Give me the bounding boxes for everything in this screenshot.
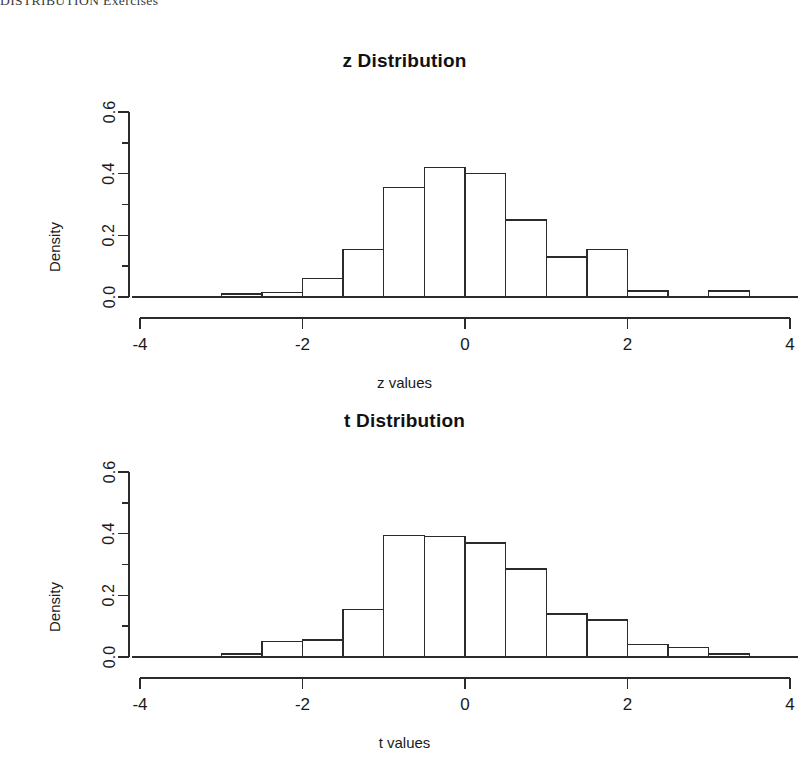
- histogram-bar: [506, 569, 547, 657]
- histogram-bar: [709, 291, 750, 297]
- histogram-bar: [384, 188, 425, 297]
- x-axis-title-t: t values: [0, 734, 809, 751]
- histogram-bar: [668, 648, 709, 657]
- y-tick-label: 0.2: [101, 584, 118, 606]
- y-tick-label: 0.0: [101, 286, 118, 308]
- y-axis-title-t: Density: [46, 582, 63, 632]
- histogram-bar: [465, 543, 506, 657]
- histogram-bar: [465, 174, 506, 297]
- x-tick-label: -2: [295, 695, 310, 714]
- histogram-bar: [587, 249, 628, 297]
- histogram-bar: [303, 279, 344, 298]
- x-tick-label: -4: [132, 335, 147, 354]
- figure-t-distribution: t Distribution 0.00.20.40.6-4-2024 Densi…: [0, 400, 809, 774]
- histogram-bar: [262, 642, 303, 657]
- histogram-bar: [343, 609, 384, 657]
- histogram-bar: [343, 249, 384, 297]
- y-axis-svg-z: [118, 112, 129, 297]
- x-tick-label: 4: [785, 335, 794, 354]
- x-tick-label: -2: [295, 335, 310, 354]
- histogram-bar: [628, 645, 669, 657]
- histogram-bars: [221, 168, 749, 298]
- x-tick-label: 2: [623, 695, 632, 714]
- x-axis-title-z: z values: [0, 374, 809, 391]
- running-header-text: DISTRIBUTION Exercises: [0, 0, 809, 8]
- histogram-bar: [424, 168, 465, 298]
- histogram-svg-t: 0.00.20.40.6-4-2024: [0, 400, 809, 730]
- histogram-bar: [546, 257, 587, 297]
- histogram-bars: [221, 535, 749, 657]
- y-tick-label: 0.4: [101, 162, 118, 184]
- histogram-bar: [546, 614, 587, 657]
- histogram-bar: [506, 220, 547, 297]
- x-tick-label: 4: [785, 695, 794, 714]
- x-axis-svg-z: [140, 318, 790, 329]
- x-tick-label: 0: [460, 335, 469, 354]
- histogram-bar: [628, 291, 669, 297]
- y-tick-label: 0.2: [101, 224, 118, 246]
- y-tick-label: 0.6: [101, 461, 118, 483]
- y-tick-label: 0.0: [101, 646, 118, 668]
- y-axis-title-z: Density: [46, 222, 63, 272]
- y-axis-svg-t: [118, 472, 129, 657]
- y-tick-label: 0.6: [101, 101, 118, 123]
- figure-z-distribution: z Distribution 0.00.20.40.6-4-2024 Densi…: [0, 40, 809, 400]
- histogram-bar: [384, 535, 425, 657]
- histogram-svg-z: 0.00.20.40.6-4-2024: [0, 40, 809, 370]
- plot-area-z: 0.00.20.40.6-4-2024: [0, 40, 809, 400]
- histogram-bar: [587, 620, 628, 657]
- x-tick-label: -4: [132, 695, 147, 714]
- plot-area-t: 0.00.20.40.6-4-2024: [0, 400, 809, 774]
- histogram-bar: [303, 640, 344, 657]
- histogram-bar: [424, 537, 465, 657]
- x-tick-label: 2: [623, 335, 632, 354]
- page-running-header: DISTRIBUTION Exercises: [0, 0, 809, 9]
- x-axis-svg-t: [140, 678, 790, 689]
- y-tick-label: 0.4: [101, 522, 118, 544]
- x-tick-label: 0: [460, 695, 469, 714]
